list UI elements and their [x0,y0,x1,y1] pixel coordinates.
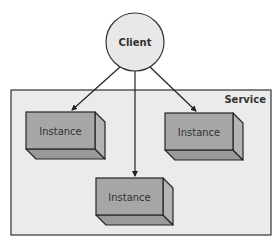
instance-node-bottom: Instance [96,178,173,225]
instance-label: Instance [108,192,151,203]
client-label: Client [119,37,152,48]
instance-label: Instance [39,126,82,137]
diagram-svg: Service Client Instance Instance [0,0,276,242]
instance-bottom-face [96,215,173,225]
instance-bottom-face [26,149,105,159]
instance-label: Instance [178,127,221,138]
diagram-canvas: Service Client Instance Instance [0,0,276,242]
instance-bottom-face [165,150,243,160]
instance-node-left: Instance [26,112,105,159]
instance-node-right: Instance [165,113,243,160]
service-label: Service [224,94,266,105]
client-node: Client [106,13,164,71]
